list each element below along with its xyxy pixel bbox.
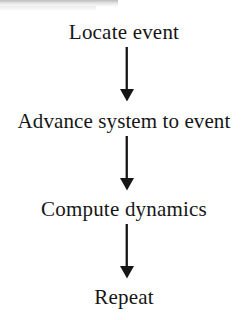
- flow-step-locate-event: Locate event: [0, 20, 248, 44]
- arrow-down-icon: [119, 224, 135, 279]
- flow-step-advance-system-to-event: Advance system to event: [0, 109, 248, 133]
- flow-step-compute-dynamics: Compute dynamics: [0, 197, 248, 221]
- scan-artifact: [0, 0, 118, 7]
- flow-step-repeat: Repeat: [0, 285, 248, 309]
- scan-artifact-2: [0, 6, 96, 11]
- arrow-down-icon: [119, 136, 135, 191]
- flowchart-diagram: Locate event Advance system to event Com…: [0, 0, 248, 320]
- arrow-down-icon: [119, 47, 135, 102]
